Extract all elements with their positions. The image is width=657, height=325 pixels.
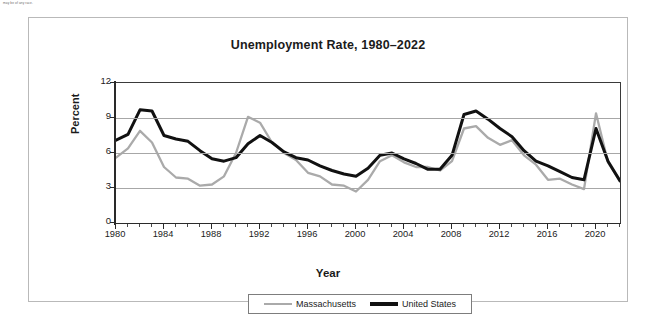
- chart-frame: Unemployment Rate, 1980–2022 Percent 036…: [28, 17, 628, 302]
- x-tick-label-2016: 2016: [537, 229, 558, 239]
- x-tick-1994: [283, 224, 284, 227]
- x-tick-label-1980: 1980: [105, 229, 126, 239]
- x-tick-1982: [139, 224, 140, 227]
- x-tick-label-2004: 2004: [393, 229, 414, 239]
- x-tick-2010: [475, 224, 476, 227]
- y-tick-label-0: 0: [85, 215, 111, 226]
- x-tick-2001: [367, 224, 368, 227]
- x-tick-label-2012: 2012: [489, 229, 510, 239]
- x-tick-2006: [427, 224, 428, 227]
- x-tick-2014: [523, 224, 524, 227]
- x-tick-label-1992: 1992: [249, 229, 270, 239]
- x-tick-2011: [487, 224, 488, 227]
- x-axis-title: Year: [29, 267, 627, 279]
- footnote-text: may be of any race.: [3, 1, 33, 6]
- chart-title: Unemployment Rate, 1980–2022: [29, 38, 627, 52]
- x-tick-1998: [331, 224, 332, 227]
- x-tick-2021: [607, 224, 608, 227]
- y-axis-line: [114, 81, 116, 225]
- x-tick-1990: [235, 224, 236, 227]
- x-tick-2018: [571, 224, 572, 227]
- legend-swatch-massachusetts: [264, 303, 292, 305]
- x-tick-2002: [379, 224, 380, 227]
- legend-swatch-united-states: [370, 302, 398, 305]
- x-tick-1997: [319, 224, 320, 227]
- x-tick-2007: [439, 224, 440, 227]
- plot-area: [115, 82, 621, 224]
- series-line-united-states: [116, 110, 620, 181]
- x-tick-2005: [415, 224, 416, 227]
- x-tick-1985: [175, 224, 176, 227]
- x-tick-2019: [583, 224, 584, 227]
- x-tick-label-1996: 1996: [297, 229, 318, 239]
- y-tick-label-3: 3: [85, 180, 111, 191]
- x-tick-1999: [343, 224, 344, 227]
- y-tick-label-12: 12: [85, 75, 111, 86]
- legend-item-massachusetts[interactable]: Massachusetts: [264, 299, 356, 309]
- x-tick-1981: [127, 224, 128, 227]
- x-tick-2003: [391, 224, 392, 227]
- x-tick-1983: [151, 224, 152, 227]
- legend-label-massachusetts: Massachusetts: [296, 299, 356, 309]
- chart-legend: Massachusetts United States: [248, 294, 472, 314]
- x-tick-label-1988: 1988: [201, 229, 222, 239]
- x-tick-1987: [199, 224, 200, 227]
- x-axis-line: [115, 223, 621, 224]
- x-tick-1986: [187, 224, 188, 227]
- y-axis-ticks: 036912: [81, 18, 111, 301]
- x-tick-1993: [271, 224, 272, 227]
- gridline-3: [116, 188, 620, 189]
- x-tick-label-1984: 1984: [153, 229, 174, 239]
- y-tick-label-9: 9: [85, 110, 111, 121]
- y-tick-label-6: 6: [85, 145, 111, 156]
- x-tick-1995: [295, 224, 296, 227]
- y-axis-title: Percent: [69, 94, 81, 134]
- x-tick-label-2008: 2008: [441, 229, 462, 239]
- x-tick-1991: [247, 224, 248, 227]
- x-tick-label-2000: 2000: [345, 229, 366, 239]
- gridline-6: [116, 153, 620, 154]
- x-tick-2015: [535, 224, 536, 227]
- x-tick-2009: [463, 224, 464, 227]
- legend-item-united-states[interactable]: United States: [370, 299, 456, 309]
- x-tick-label-2020: 2020: [585, 229, 606, 239]
- x-tick-2022: [619, 224, 620, 227]
- gridline-9: [116, 118, 620, 119]
- x-tick-2013: [511, 224, 512, 227]
- legend-label-united-states: United States: [402, 299, 456, 309]
- x-tick-2017: [559, 224, 560, 227]
- x-tick-1989: [223, 224, 224, 227]
